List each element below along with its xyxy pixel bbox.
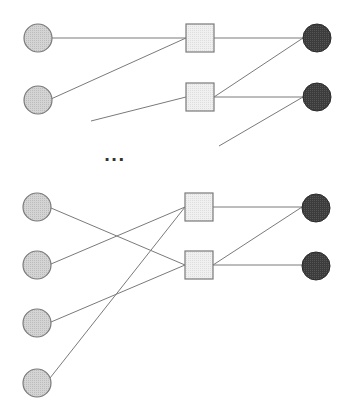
input-node-in-3 — [23, 193, 51, 221]
network-diagram — [0, 0, 348, 420]
input-node-in-4 — [23, 251, 51, 279]
output-node-out-3 — [302, 194, 330, 222]
edge-partial-to-out-2 — [219, 97, 303, 146]
hidden-node-sq-1 — [186, 24, 214, 52]
ellipsis-continuation: ... — [104, 148, 125, 164]
hidden-node-sq-2 — [186, 83, 214, 111]
output-node-out-2 — [303, 83, 331, 111]
edge-in-3-to-sq-4 — [51, 208, 185, 265]
bottom-group — [23, 193, 330, 397]
edge-sq-2-to-out-1 — [214, 38, 303, 97]
hidden-node-sq-4 — [185, 251, 213, 279]
output-node-out-1 — [303, 24, 331, 52]
output-node-out-4 — [302, 252, 330, 280]
edge-partial-to-sq-2 — [91, 97, 186, 121]
edge-in-4-to-sq-3 — [51, 207, 185, 264]
input-node-in-5 — [23, 309, 51, 337]
input-node-in-1 — [24, 24, 52, 52]
edge-in-2-to-sq-1 — [51, 38, 186, 99]
edge-in-5-to-sq-4 — [51, 265, 185, 322]
hidden-node-sq-3 — [185, 193, 213, 221]
edge-in-6-to-sq-3 — [50, 207, 185, 378]
edges-layer — [50, 38, 303, 378]
input-node-in-2 — [24, 86, 52, 114]
edge-sq-4-to-out-3 — [213, 207, 302, 265]
input-node-in-6 — [23, 369, 51, 397]
